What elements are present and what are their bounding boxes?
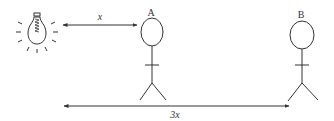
- person-a: [140, 18, 166, 100]
- person-b-label: B: [298, 9, 305, 20]
- distance-arrow-x: x: [63, 11, 137, 25]
- person-a-label: A: [147, 7, 155, 18]
- distance-arrow-3x: 3x: [64, 106, 289, 120]
- distance-label-3x: 3x: [169, 109, 180, 120]
- diagram-canvas: x A B 3x: [0, 0, 334, 121]
- light-bulb-icon: [16, 13, 58, 53]
- person-b: [288, 21, 318, 101]
- distance-label-x: x: [97, 11, 103, 22]
